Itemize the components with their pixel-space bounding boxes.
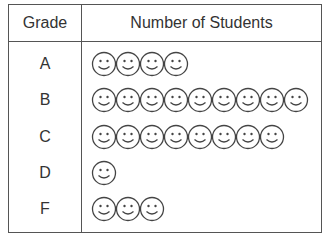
- smiley-face-icon: [91, 87, 117, 113]
- grade-label: C: [9, 119, 81, 155]
- smiley-face-icon: [115, 196, 141, 222]
- table-row: D: [9, 155, 321, 191]
- smiley-face-icon: [91, 51, 117, 77]
- smiley-face-icon: [235, 124, 261, 150]
- smiley-face-icon: [163, 51, 189, 77]
- smiley-face-icon: [91, 160, 117, 186]
- smiley-face-icon: [187, 87, 213, 113]
- student-pictograph: [91, 124, 283, 150]
- header-divider: [9, 41, 321, 42]
- smiley-face-icon: [115, 51, 141, 77]
- table-row: C: [9, 119, 321, 155]
- smiley-face-icon: [187, 124, 213, 150]
- pictograph-table: Grade Number of Students A B: [8, 4, 322, 233]
- smiley-face-icon: [211, 124, 237, 150]
- header-grade: Grade: [9, 5, 81, 41]
- table-row: B: [9, 82, 321, 118]
- header-number-of-students: Number of Students: [82, 5, 321, 41]
- student-pictograph: [91, 51, 187, 77]
- grade-label: F: [9, 191, 81, 227]
- smiley-face-icon: [235, 87, 261, 113]
- table-row: A: [9, 46, 321, 82]
- smiley-face-icon: [91, 196, 117, 222]
- smiley-face-icon: [115, 87, 141, 113]
- smiley-face-icon: [139, 87, 165, 113]
- smiley-face-icon: [139, 124, 165, 150]
- student-pictograph: [91, 160, 115, 186]
- smiley-face-icon: [259, 87, 285, 113]
- smiley-face-icon: [115, 124, 141, 150]
- student-pictograph: [91, 87, 307, 113]
- grade-label: A: [9, 46, 81, 82]
- smiley-face-icon: [139, 51, 165, 77]
- smiley-face-icon: [139, 196, 165, 222]
- smiley-face-icon: [91, 124, 117, 150]
- smiley-face-icon: [163, 87, 189, 113]
- table-row: F: [9, 191, 321, 227]
- smiley-face-icon: [163, 124, 189, 150]
- smiley-face-icon: [283, 87, 309, 113]
- student-pictograph: [91, 196, 163, 222]
- grade-label: D: [9, 155, 81, 191]
- grade-label: B: [9, 82, 81, 118]
- smiley-face-icon: [259, 124, 285, 150]
- smiley-face-icon: [211, 87, 237, 113]
